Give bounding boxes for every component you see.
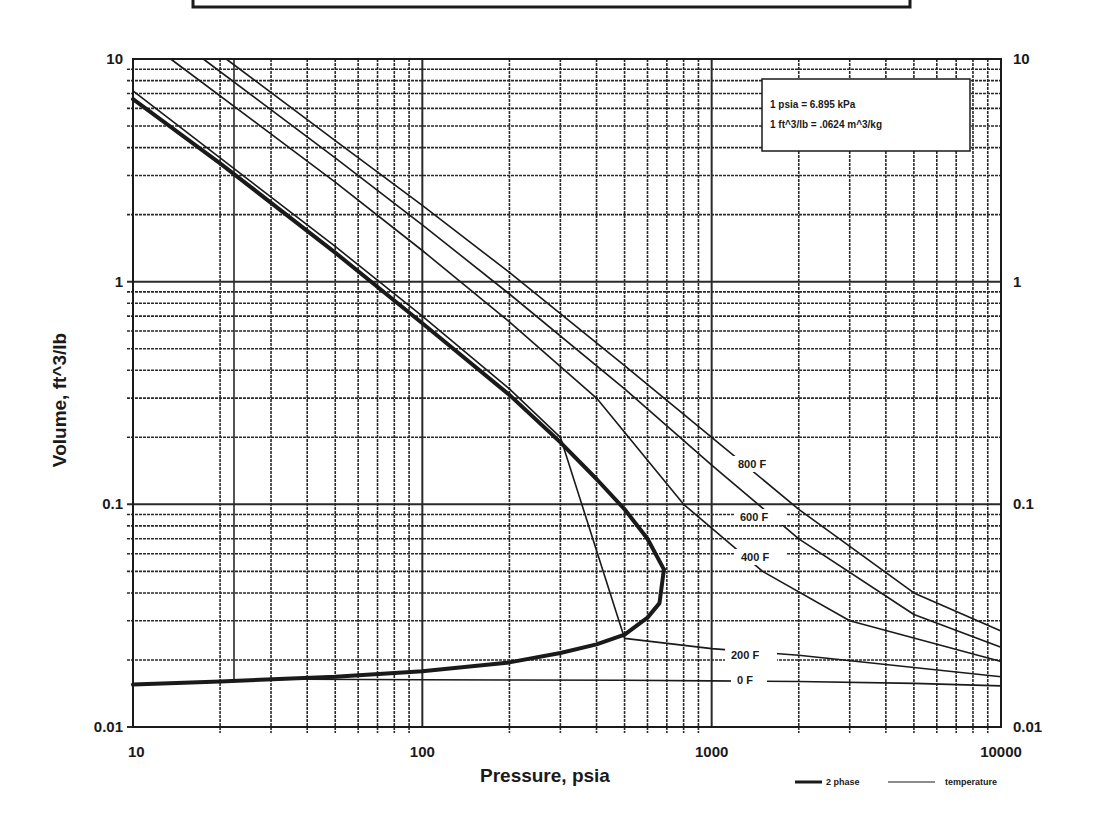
title-box-frame bbox=[193, 0, 910, 7]
curve-2-phase-liquid-side- bbox=[133, 569, 664, 684]
curve-2-phase-vapor-side- bbox=[133, 99, 664, 569]
tick-labels: 101001000100001010.10.011010.10.01 bbox=[94, 50, 1042, 760]
x-tick-label: 100 bbox=[410, 743, 435, 760]
y-tick-label-right: 0.01 bbox=[1013, 718, 1042, 735]
note-line-2: 1 ft^3/lb = .0624 m^3/kg bbox=[770, 119, 882, 130]
x-tick-label: 1000 bbox=[695, 743, 728, 760]
curve-label: 200 F bbox=[731, 649, 759, 661]
y-tick-label-left: 0.01 bbox=[94, 718, 123, 735]
curve-label: 400 F bbox=[741, 551, 769, 563]
curves bbox=[133, 59, 1001, 686]
legend: 2 phase temperature bbox=[795, 777, 997, 787]
y-tick-label-right: 1 bbox=[1013, 273, 1021, 290]
curve-200-f bbox=[133, 91, 1001, 677]
chart: 101001000100001010.10.011010.10.01 800 F… bbox=[0, 0, 1093, 832]
y-axis-label: Volume, ft^3/lb bbox=[49, 333, 70, 467]
x-axis-label: Pressure, psia bbox=[480, 765, 610, 786]
y-tick-label-right: 10 bbox=[1013, 50, 1030, 67]
y-tick-label-left: 0.1 bbox=[102, 495, 123, 512]
legend-label-temperature: temperature bbox=[945, 777, 997, 787]
grid bbox=[127, 59, 1001, 733]
note-line-1: 1 psia = 6.895 kPa bbox=[770, 99, 856, 110]
legend-label-2-phase: 2 phase bbox=[826, 777, 860, 787]
y-tick-label-left: 1 bbox=[115, 273, 123, 290]
curve-0-f bbox=[301, 679, 1001, 686]
curve-label: 600 F bbox=[740, 511, 768, 523]
curve-label: 0 F bbox=[737, 674, 753, 686]
x-tick-label: 10000 bbox=[980, 743, 1022, 760]
y-tick-label-right: 0.1 bbox=[1013, 495, 1034, 512]
note-box: 1 psia = 6.895 kPa 1 ft^3/lb = .0624 m^3… bbox=[762, 79, 970, 151]
y-tick-label-left: 10 bbox=[106, 50, 123, 67]
curve-label: 800 F bbox=[738, 458, 766, 470]
x-tick-label: 10 bbox=[128, 743, 145, 760]
